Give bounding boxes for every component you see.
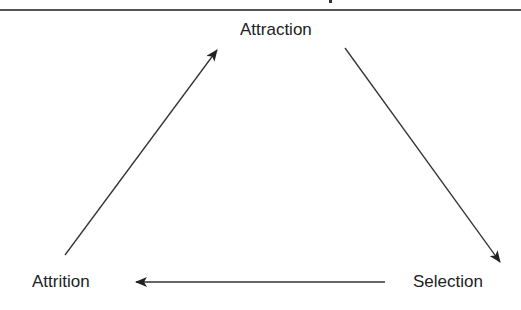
arrow-attraction-to-selection (345, 48, 500, 262)
arrow-attrition-to-attraction (65, 50, 217, 255)
cycle-arrows (0, 0, 521, 310)
